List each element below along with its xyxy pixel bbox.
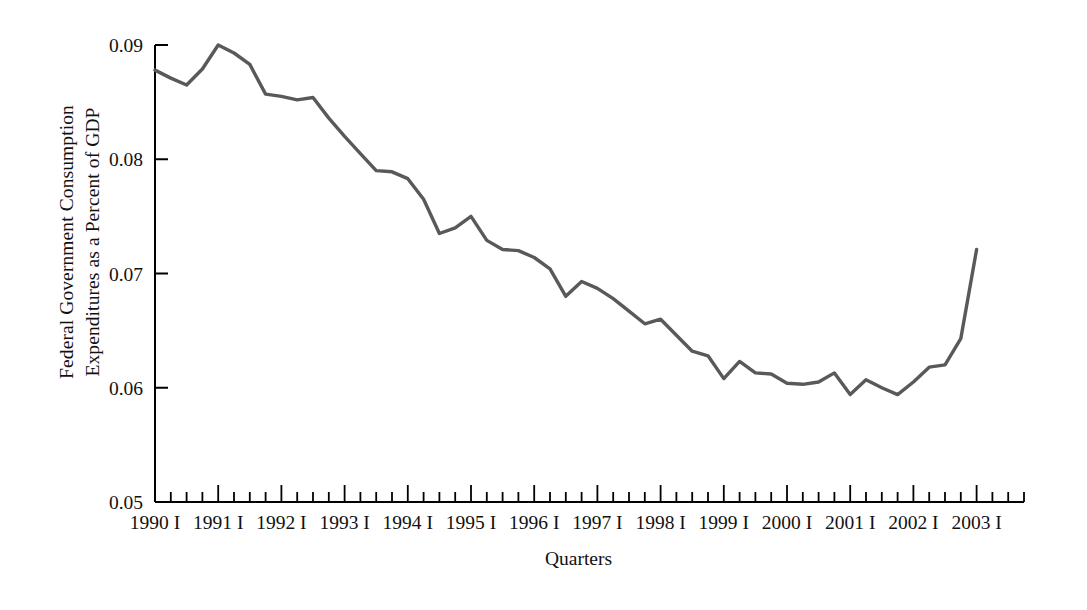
x-tick-label-2001-I: 2001 I	[825, 512, 875, 533]
x-axis-title: Quarters	[0, 548, 1087, 570]
data-series-group	[155, 45, 977, 395]
y-tick-label-0.06: 0.06	[109, 378, 143, 399]
x-tick-label-1999-I: 1999 I	[699, 512, 749, 533]
x-tick-label-2003-I: 2003 I	[951, 512, 1001, 533]
x-tick-label-1997-I: 1997 I	[572, 512, 622, 533]
x-tick-label-1998-I: 1998 I	[635, 512, 685, 533]
chart-axes	[155, 45, 1024, 502]
y-tick-label-0.05: 0.05	[109, 492, 143, 513]
x-axis-title-text: Quarters	[545, 548, 612, 570]
chart-figure: Federal Government Consumption Expenditu…	[0, 0, 1087, 610]
series-line-federal-consumption	[155, 45, 977, 395]
x-tick-label-2000-I: 2000 I	[762, 512, 812, 533]
y-tick-label-0.09: 0.09	[109, 35, 143, 56]
x-tick-label-1994-I: 1994 I	[383, 512, 433, 533]
y-tick-label-0.07: 0.07	[109, 264, 143, 285]
line-chart-plot: 0.050.060.070.080.09 1990 I1991 I1992 I1…	[0, 0, 1087, 610]
x-axis-tick-labels: 1990 I1991 I1992 I1993 I1994 I1995 I1996…	[130, 512, 1002, 533]
y-axis-tick-labels: 0.050.060.070.080.09	[109, 35, 143, 513]
x-tick-label-1990-I: 1990 I	[130, 512, 180, 533]
y-tick-label-0.08: 0.08	[109, 149, 143, 170]
x-tick-label-1996-I: 1996 I	[509, 512, 559, 533]
x-tick-label-1992-I: 1992 I	[256, 512, 306, 533]
x-tick-label-1991-I: 1991 I	[193, 512, 243, 533]
y-axis-ticks	[155, 45, 168, 502]
x-tick-label-1995-I: 1995 I	[446, 512, 496, 533]
x-tick-label-2002-I: 2002 I	[888, 512, 938, 533]
x-axis-ticks	[155, 485, 1024, 502]
x-tick-label-1993-I: 1993 I	[319, 512, 369, 533]
